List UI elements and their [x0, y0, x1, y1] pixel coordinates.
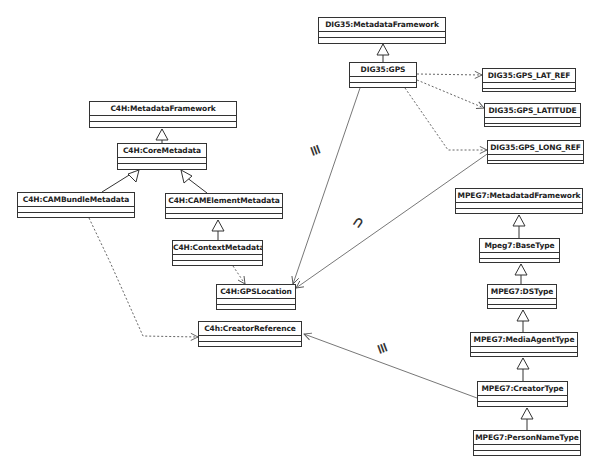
class-name: Mpeg7:BaseType: [480, 239, 559, 253]
class-name: MPEG7:CreatorType: [478, 382, 567, 396]
class-name: MPEG7:DSType: [488, 285, 556, 299]
class-c4h-context-metadata[interactable]: C4H:ContextMetadata: [172, 240, 263, 266]
class-dig35-gps-long-ref[interactable]: DIG35:GPS_LONG_REF: [487, 140, 584, 164]
class-name: DIG35:GPS_LONG_REF: [488, 141, 583, 155]
class-name: MPEG7:MediaAgentType: [471, 333, 577, 347]
class-name: C4H:CAMBundleMetadata: [18, 193, 134, 207]
class-c4h-metadata-framework[interactable]: C4H:MetadataFramework: [89, 101, 237, 128]
class-name: MPEG7:MetadatadFramework: [456, 189, 582, 203]
class-operations: [166, 214, 282, 218]
class-operations: [456, 209, 582, 213]
class-operations: [217, 305, 295, 309]
class-mpeg7-media-agent-type[interactable]: MPEG7:MediaAgentType: [470, 332, 578, 357]
class-operations: [488, 161, 583, 163]
class-mpeg7-ds-type[interactable]: MPEG7:DSType: [487, 284, 557, 309]
class-c4h-creator-reference[interactable]: C4h:CreatorReference: [198, 321, 302, 347]
class-mpeg7-metadata-framework[interactable]: MPEG7:MetadatadFramework: [455, 188, 583, 214]
class-operations: [485, 124, 580, 126]
class-operations: [118, 164, 206, 169]
class-dig35-gps-latitude[interactable]: DIG35:GPS_LATITUDE: [484, 103, 581, 127]
class-c4h-gps-location[interactable]: C4H:GPSLocation: [216, 284, 296, 310]
class-operations: [478, 402, 567, 406]
class-c4h-cam-element-metadata[interactable]: C4H:CAMElementMetadata: [165, 193, 283, 219]
class-operations: [488, 305, 556, 308]
class-operations: [480, 259, 559, 262]
class-mpeg7-base-type[interactable]: Mpeg7:BaseType: [479, 238, 560, 263]
class-operations: [319, 38, 445, 43]
class-operations: [471, 353, 577, 356]
class-name: DIG35:GPS_LATITUDE: [485, 104, 580, 118]
class-name: DIG35:GPS: [350, 63, 416, 77]
class-name: C4H:CoreMetadata: [118, 144, 206, 158]
class-operations: [173, 261, 262, 265]
class-name: C4H:ContextMetadata: [173, 241, 262, 255]
class-dig35-gps-lat-ref[interactable]: DIG35:GPS_LAT_REF: [482, 68, 576, 92]
class-name: C4H:GPSLocation: [217, 285, 295, 299]
class-name: C4h:CreatorReference: [199, 322, 301, 336]
class-name: C4H:MetadataFramework: [90, 102, 236, 116]
class-operations: [90, 122, 236, 127]
class-name: DIG35:GPS_LAT_REF: [483, 69, 575, 83]
class-c4h-cam-bundle-metadata[interactable]: C4H:CAMBundleMetadata: [17, 192, 135, 218]
inheritance-dig35-gps: [377, 44, 389, 62]
class-mpeg7-person-name-type[interactable]: MPEG7:PersonNameType: [473, 430, 581, 456]
class-dig35-metadata-framework[interactable]: DIG35:MetadataFramework: [318, 17, 446, 44]
class-dig35-gps[interactable]: DIG35:GPS: [349, 62, 417, 88]
class-name: C4H:CAMElementMetadata: [166, 194, 282, 208]
class-operations: [483, 89, 575, 91]
class-operations: [474, 451, 580, 455]
class-operations: [350, 83, 416, 87]
class-operations: [18, 213, 134, 217]
class-name: DIG35:MetadataFramework: [319, 18, 445, 32]
class-operations: [199, 342, 301, 346]
class-c4h-core-metadata[interactable]: C4H:CoreMetadata: [117, 143, 207, 170]
class-name: MPEG7:PersonNameType: [474, 431, 580, 445]
class-mpeg7-creator-type[interactable]: MPEG7:CreatorType: [477, 381, 568, 407]
